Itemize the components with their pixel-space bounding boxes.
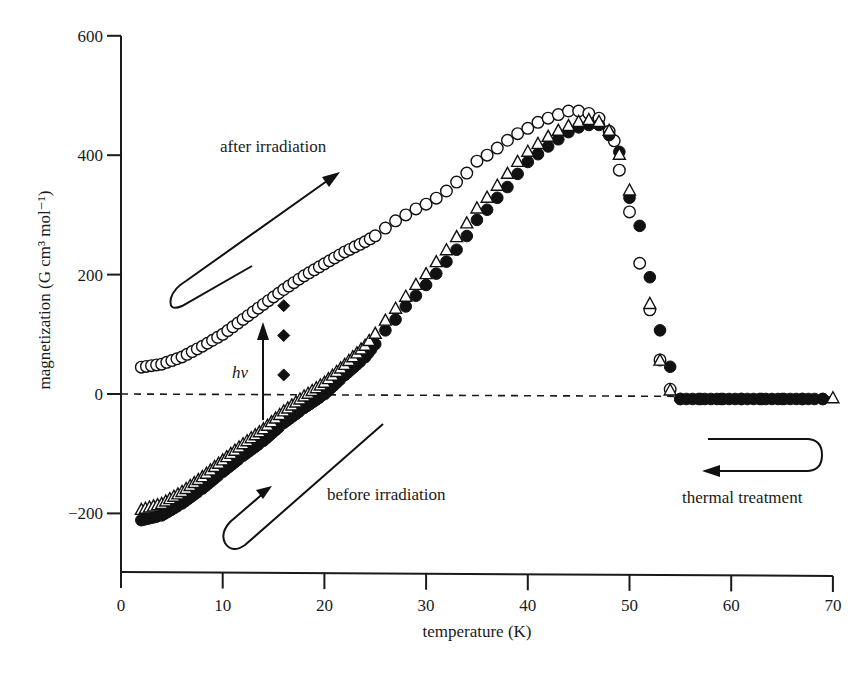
x-tick-label: 20 <box>316 596 333 615</box>
y-axis-label: magnetization (G cm³ mol⁻¹) <box>35 190 54 389</box>
data-point <box>400 301 412 313</box>
x-tick-label: 70 <box>824 596 841 615</box>
x-tick-label: 40 <box>519 596 536 615</box>
data-point <box>461 167 473 179</box>
series-filled-diamond <box>278 300 290 381</box>
axes: −2000200400600010203040506070temperature… <box>35 27 841 641</box>
x-axis-label: temperature (K) <box>422 622 531 641</box>
data-point <box>451 176 463 188</box>
y-tick-label: 200 <box>78 266 104 285</box>
data-point <box>644 271 656 283</box>
data-point <box>664 361 676 373</box>
after-irradiation-label: after irradiation <box>220 137 327 156</box>
data-point <box>634 257 646 269</box>
data-point <box>278 300 290 312</box>
data-point <box>491 179 503 190</box>
data-point <box>369 230 381 242</box>
data-point <box>441 185 453 197</box>
data-point <box>471 202 483 213</box>
data-point <box>644 297 656 308</box>
data-point <box>634 220 646 232</box>
data-point <box>481 204 493 216</box>
magnetization-chart: −2000200400600010203040506070temperature… <box>0 0 868 674</box>
data-point <box>522 145 534 156</box>
data-point <box>461 230 473 242</box>
hv-label: hν <box>232 363 249 382</box>
data-point <box>481 149 493 161</box>
y-tick-label: 400 <box>78 146 104 165</box>
data-point <box>471 214 483 226</box>
y-tick-label: 600 <box>78 27 104 46</box>
after-irradiation-arrowhead <box>322 172 340 187</box>
y-tick-label: −200 <box>68 504 103 523</box>
y-tick-label: 0 <box>95 385 104 404</box>
x-tick-label: 60 <box>723 596 740 615</box>
data-point <box>502 134 514 146</box>
x-tick-label: 50 <box>621 596 638 615</box>
data-point <box>430 192 442 204</box>
hv-arrowhead <box>257 322 269 340</box>
data-point <box>502 181 514 193</box>
data-point <box>654 325 666 337</box>
series-open-circle <box>136 105 676 395</box>
data-point <box>542 141 554 153</box>
x-tick-label: 10 <box>214 596 231 615</box>
data-point <box>390 314 402 326</box>
data-point <box>491 142 503 154</box>
annotation-labels: after irradiation before irradiation the… <box>220 137 803 507</box>
before-irradiation-label: before irradiation <box>327 485 446 504</box>
data-point <box>614 164 626 176</box>
thermal-treatment-arrowhead <box>702 465 720 477</box>
data-series <box>135 105 839 526</box>
data-point <box>532 137 544 148</box>
after-irradiation-arrow <box>170 176 334 308</box>
x-tick-label: 30 <box>418 596 435 615</box>
data-point <box>278 329 290 341</box>
x-tick-label: 0 <box>117 596 126 615</box>
data-point <box>278 369 290 381</box>
thermal-treatment-arrow <box>708 439 822 471</box>
data-point <box>380 325 392 337</box>
data-point <box>624 184 636 195</box>
thermal-treatment-label: thermal treatment <box>682 488 803 507</box>
x-axis <box>121 572 833 576</box>
data-point <box>624 206 636 218</box>
data-point <box>380 222 392 234</box>
data-point <box>532 148 544 160</box>
data-point <box>410 290 422 302</box>
